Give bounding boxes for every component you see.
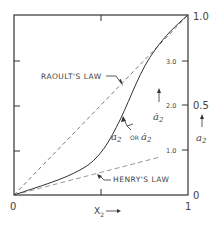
inner-label-1: 1.0 xyxy=(166,147,176,155)
curve-label-adot: ȧ2 xyxy=(141,131,152,144)
x-tick-0: 0 xyxy=(10,201,16,212)
a-axis-arrowhead xyxy=(200,114,204,119)
right-label-1-0: 1.0 xyxy=(193,11,209,22)
curve-label-a: a2 xyxy=(111,131,122,144)
adot-axis-arrowhead xyxy=(157,88,161,93)
activity-chart: RAOULT'S LAW HENRY'S LAW a2 OR ȧ2 0 1 X2… xyxy=(0,0,223,227)
inner-label-2: 2.0 xyxy=(166,102,176,110)
henry-label: HENRY'S LAW xyxy=(113,175,170,184)
inner-label-3: 3.0 xyxy=(166,58,176,66)
raoult-pointer xyxy=(106,76,121,83)
adot-axis-label: ȧ2 xyxy=(153,111,164,124)
right-label-0-5: 0.5 xyxy=(193,100,209,111)
x-axis-arrowhead xyxy=(117,209,121,213)
x-axis-label: X2 xyxy=(94,206,104,218)
right-label-0: 0 xyxy=(193,190,199,201)
henry-arrowhead xyxy=(97,174,102,179)
raoult-label: RAOULT'S LAW xyxy=(41,72,102,81)
curve-pointer-branch xyxy=(127,124,133,126)
raoult-line xyxy=(14,15,188,195)
a-axis-label: a2 xyxy=(196,132,207,145)
curve-label-or: OR xyxy=(130,134,139,141)
x-tick-1: 1 xyxy=(185,201,191,212)
